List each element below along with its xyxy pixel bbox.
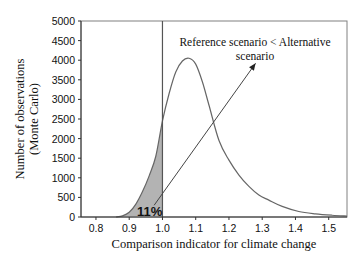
x-tick-label: 0.8 — [89, 222, 104, 234]
y-axis-ticks: 0500100015002000250030003500400045005000 — [52, 15, 81, 223]
y-tick-label: 4500 — [52, 35, 76, 47]
x-tick-label: 1.3 — [255, 222, 270, 234]
y-tick-label: 1500 — [52, 152, 76, 164]
annotation-line-1: Reference scenario < Alternative — [179, 36, 330, 48]
annotation-line-2: scenario — [236, 50, 275, 62]
y-tick-label: 4000 — [52, 54, 76, 66]
x-tick-label: 1.1 — [188, 222, 203, 234]
y-tick-label: 2500 — [52, 113, 76, 125]
y-tick-label: 3000 — [52, 93, 76, 105]
x-tick-label: 1.5 — [321, 222, 336, 234]
x-tick-label: 0.9 — [122, 222, 137, 234]
y-tick-label: 2000 — [52, 133, 76, 145]
y-tick-label: 1000 — [52, 172, 76, 184]
distribution-chart: 0.80.91.01.11.21.31.41.5 050010001500200… — [0, 0, 364, 266]
shaded-percentage-label: 11% — [137, 204, 163, 219]
x-axis-label: Comparison indicator for climate change — [112, 237, 317, 251]
chart-root: 0.80.91.01.11.21.31.41.5 050010001500200… — [0, 0, 364, 266]
plot-frame — [81, 21, 347, 217]
y-tick-label: 5000 — [52, 15, 76, 27]
x-tick-label: 1.0 — [155, 222, 170, 234]
y-tick-label: 0 — [69, 211, 75, 223]
y-tick-label: 3500 — [52, 74, 76, 86]
y-axis-label-line-1: Number of observations — [13, 58, 27, 179]
plot-area — [81, 21, 347, 217]
y-axis-label-line-2: (Monte Carlo) — [27, 83, 41, 155]
x-axis-ticks: 0.80.91.01.11.21.31.41.5 — [89, 217, 337, 234]
x-tick-label: 1.4 — [288, 222, 303, 234]
x-tick-label: 1.2 — [222, 222, 237, 234]
y-tick-label: 500 — [57, 191, 75, 203]
